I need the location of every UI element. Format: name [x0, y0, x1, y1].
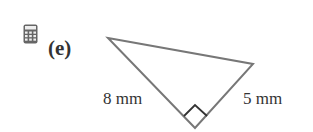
right-angle-marker — [184, 105, 207, 116]
triangle — [108, 38, 253, 128]
right-triangle-figure — [0, 0, 313, 132]
side-label-right: 5 mm — [243, 89, 282, 109]
side-label-left: 8 mm — [103, 89, 142, 109]
